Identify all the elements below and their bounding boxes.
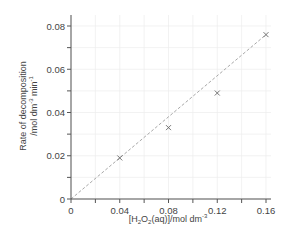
y-tick-label: 0.06 bbox=[47, 64, 66, 75]
grid-lines bbox=[71, 15, 271, 199]
x-tick-label: 0.12 bbox=[208, 205, 227, 216]
x-tick-label: 0.16 bbox=[257, 205, 276, 216]
y-tick-label: 0.02 bbox=[47, 150, 66, 161]
rate-vs-concentration-chart: 00.040.080.120.1600.020.040.060.08 [H2O2… bbox=[0, 0, 285, 247]
x-tick-label: 0.04 bbox=[111, 205, 130, 216]
y-tick-label: 0.04 bbox=[47, 107, 66, 118]
x-tick-label: 0 bbox=[68, 205, 73, 216]
y-tick-label: 0 bbox=[60, 194, 65, 205]
tick-labels: 00.040.080.120.1600.020.040.060.08 bbox=[47, 21, 276, 217]
x-axis-title: [H2O2(aq)]/mol dm-3 bbox=[129, 213, 208, 225]
y-axis-title-line1: Rate of decomposition bbox=[18, 61, 28, 151]
y-tick-label: 0.08 bbox=[47, 21, 66, 32]
y-axis-title-line2: /mol dm-3 min-1 bbox=[28, 75, 39, 135]
axes bbox=[67, 15, 271, 203]
